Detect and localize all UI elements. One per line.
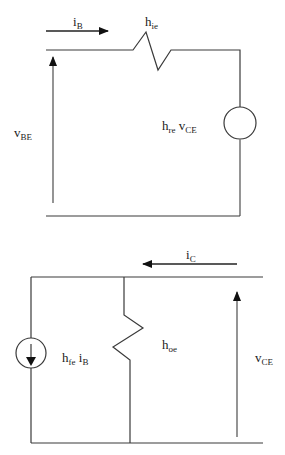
arrow-down-icon: [26, 357, 36, 366]
vbe-label: vBE: [14, 125, 33, 142]
hfe-ib-label: hfe iB: [62, 350, 88, 367]
vce-label: vCE: [255, 350, 274, 367]
hie-label: hie: [145, 14, 158, 31]
input-circuit: iB hie hre vCE vBE: [14, 14, 256, 216]
input-top-wire-with-hie-resistor: [46, 32, 240, 107]
base-current-label: iB: [73, 14, 83, 31]
h-parameter-circuit-diagram: iB hie hre vCE vBE iC hfe iB hoe: [0, 0, 285, 455]
collector-current-label: iC: [186, 247, 196, 264]
hre-vce-label: hre vCE: [162, 118, 197, 135]
hoe-label: hoe: [162, 337, 177, 354]
hoe-resistor: [113, 277, 143, 443]
voltage-source-icon: [224, 107, 256, 139]
output-circuit: iC hfe iB hoe vCE: [16, 247, 274, 443]
